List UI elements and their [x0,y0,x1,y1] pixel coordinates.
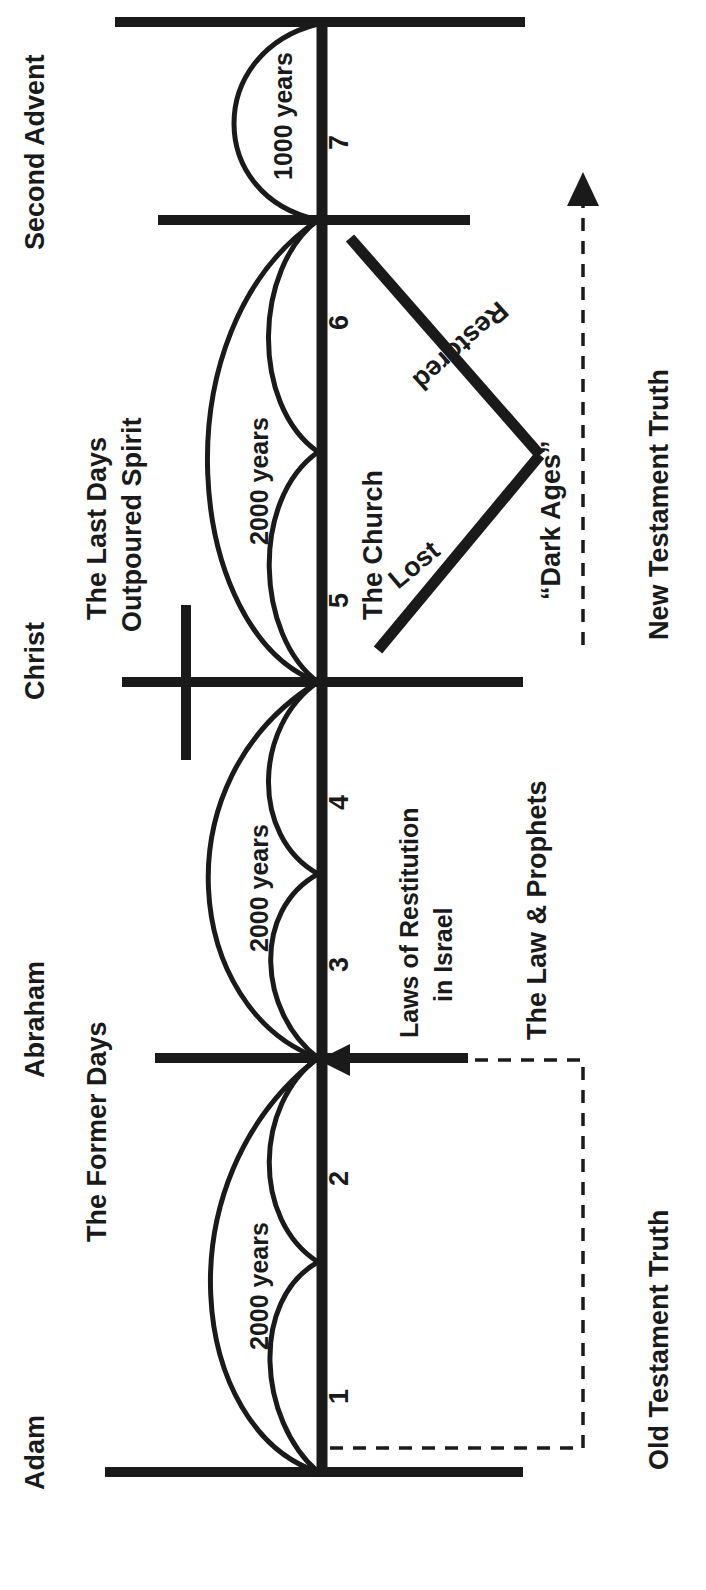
label-dark-ages: “Dark Ages” [536,440,566,600]
label-old-testament-truth: Old Testament Truth [644,1209,674,1470]
label-the-church: The Church [358,470,388,620]
segment-number-3: 3 [324,957,354,972]
segment-number-1: 1 [324,1389,354,1404]
segment-number-2: 2 [324,1171,354,1186]
label-span-3: 2000 years [245,417,273,545]
segment-number-4: 4 [324,795,354,810]
label-former-days: The Former Days [82,1021,112,1242]
label-new-testament-truth: New Testament Truth [644,369,674,640]
label-laws-line1: Laws of Restitution [395,807,423,1038]
label-span-4: 1000 years [269,52,297,180]
segment-number-7: 7 [324,135,354,150]
label-span-1: 2000 years [245,1222,273,1350]
label-span-2: 2000 years [245,824,273,952]
diagram-canvas: Adam Abraham Christ Second Advent The Fo… [0,0,706,1590]
label-outpoured-spirit: Outpoured Spirit [117,418,147,632]
label-christ: Christ [20,622,50,700]
label-abraham: Abraham [20,961,50,1078]
label-law-and-prophets: The Law & Prophets [522,780,552,1040]
label-second-advent: Second Advent [20,54,50,250]
timeline-diagram: Adam Abraham Christ Second Advent The Fo… [0,0,706,1590]
segment-number-5: 5 [324,593,354,608]
segment-number-6: 6 [324,315,354,330]
label-laws-line2: in Israel [429,908,457,1003]
label-last-days: The Last Days [82,437,112,620]
label-adam: Adam [20,1415,50,1490]
